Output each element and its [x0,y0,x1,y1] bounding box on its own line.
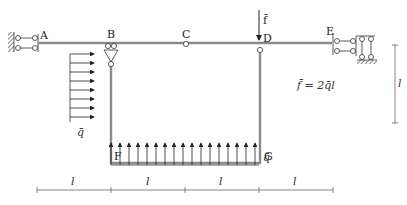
node-e-label: E [326,25,334,38]
dim-label-3: l [219,175,223,188]
joint-b [104,43,118,66]
horizontal-dimension [37,187,333,193]
ground-hatch-icon [357,60,377,64]
node-b-label: B [107,28,115,41]
force-label: f̄ [263,14,268,27]
hinge-d [257,47,262,52]
dim-label-4: l [293,175,297,188]
dim-label-2: l [146,175,150,188]
frame-bfgd [111,50,260,163]
node-a-label: A [39,29,49,42]
structure-diagram: f̄ A B C D E F G q̄ [0,0,407,205]
node-f-label: F [114,150,122,163]
ground-hatch-icon [8,32,14,52]
distributed-bottom-label: q̄ [263,151,270,164]
distributed-load-bottom [111,143,259,165]
force-relation: f̄ = 2q̄l [296,79,335,92]
support-a [8,32,38,52]
support-e [333,33,377,64]
vertical-dim-label: l [398,77,402,90]
dim-label-1: l [71,175,75,188]
distributed-load-left [70,54,94,122]
node-c-label: C [182,28,190,41]
hinge-c [183,41,188,46]
node-d-label: D [263,32,272,45]
distributed-left-label: q̄ [77,126,84,139]
